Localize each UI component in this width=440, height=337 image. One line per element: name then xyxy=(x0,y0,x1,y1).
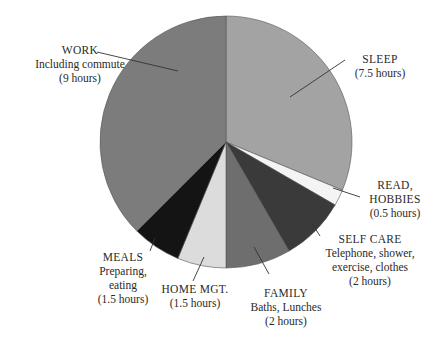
label-family-detail: Baths, Lunches xyxy=(236,300,336,314)
label-work-detail: Including commute xyxy=(20,57,140,71)
label-selfcare-detail2: exercise, clothes xyxy=(310,260,430,274)
label-read-title2: HOBBIES xyxy=(360,192,430,206)
label-read: READ, HOBBIES (0.5 hours) xyxy=(360,178,430,220)
label-selfcare-detail1: Telephone, shower, xyxy=(310,246,430,260)
label-meals-detail2: eating xyxy=(88,278,158,292)
label-sleep-title: SLEEP xyxy=(345,52,415,66)
label-read-title: READ, xyxy=(360,178,430,192)
label-selfcare: SELF CARE Telephone, shower, exercise, c… xyxy=(310,232,430,288)
label-homemgt: HOME MGT. (1.5 hours) xyxy=(150,282,240,310)
label-family-title: FAMILY xyxy=(236,286,336,300)
label-meals-value: (1.5 hours) xyxy=(88,292,158,306)
label-meals: MEALS Preparing, eating (1.5 hours) xyxy=(88,250,158,306)
label-read-value: (0.5 hours) xyxy=(360,206,430,220)
label-meals-title: MEALS xyxy=(88,250,158,264)
label-homemgt-value: (1.5 hours) xyxy=(150,296,240,310)
label-sleep-value: (7.5 hours) xyxy=(345,66,415,80)
label-work: WORK Including commute (9 hours) xyxy=(20,43,140,85)
label-homemgt-title: HOME MGT. xyxy=(150,282,240,296)
label-family-value: (2 hours) xyxy=(236,314,336,328)
label-sleep: SLEEP (7.5 hours) xyxy=(345,52,415,80)
label-work-title: WORK xyxy=(20,43,140,57)
label-selfcare-title: SELF CARE xyxy=(310,232,430,246)
label-meals-detail1: Preparing, xyxy=(88,264,158,278)
label-work-value: (9 hours) xyxy=(20,71,140,85)
label-family: FAMILY Baths, Lunches (2 hours) xyxy=(236,286,336,328)
